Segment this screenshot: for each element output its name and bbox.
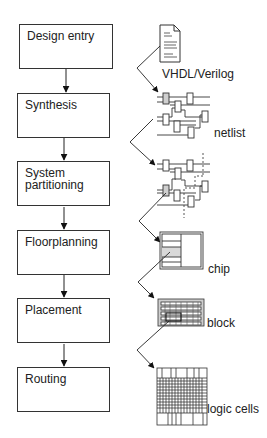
document-icon: [160, 25, 180, 62]
label-block: block: [207, 317, 235, 329]
label-vhdl-verilog: VHDL/Verilog: [162, 68, 234, 80]
label-netlist: netlist: [214, 127, 245, 139]
connector-arrow: [137, 46, 160, 92]
chip-floorplan-icon: [160, 232, 203, 269]
connector-arrow: [130, 119, 155, 165]
flow-arrows: [64, 69, 66, 366]
connector-arrow: [137, 321, 169, 368]
routed-cells-icon: [157, 368, 207, 425]
label-logic-cells: logic cells: [207, 403, 259, 415]
netlist-icon: [157, 93, 210, 138]
partitioned-netlist-icon: [157, 153, 210, 218]
placement-block-icon: [158, 299, 204, 326]
label-chip: chip: [208, 263, 230, 275]
design-flow-diagram: Design entry Synthesis System partitioni…: [0, 0, 267, 438]
diagram-graphics: [0, 0, 267, 438]
